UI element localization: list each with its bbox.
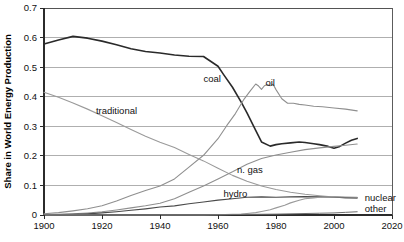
y-axis-tick-labels: 00.10.20.30.40.50.60.7 xyxy=(24,2,37,220)
y-tick-label-0: 0 xyxy=(32,209,37,220)
x-tick-label-3: 1960 xyxy=(207,220,228,231)
y-tick-label-4: 0.4 xyxy=(24,91,37,102)
y-axis-title-text: Share in World Energy Production xyxy=(2,34,13,189)
series-line-coal xyxy=(44,36,357,148)
series-inline-labels: coaloiltraditionaln. gashydronuclearothe… xyxy=(96,73,396,215)
y-tick-label-6: 0.6 xyxy=(24,32,37,43)
x-tick-label-4: 1980 xyxy=(265,220,286,231)
x-tick-label-1: 1920 xyxy=(91,220,112,231)
series-label-coal: coal xyxy=(203,73,220,84)
energy-share-chart: 1900192019401960198020002020 00.10.20.30… xyxy=(0,0,404,242)
series-paths xyxy=(44,36,357,215)
y-tick-label-7: 0.7 xyxy=(24,2,37,13)
chart-svg: 1900192019401960198020002020 00.10.20.30… xyxy=(0,0,404,242)
series-line-ngas xyxy=(44,144,357,215)
series-label-ngas: n. gas xyxy=(237,164,263,175)
series-label-traditional: traditional xyxy=(96,105,137,116)
series-label-nuclear: nuclear xyxy=(365,192,396,203)
series-label-oil: oil xyxy=(265,77,275,88)
x-tick-label-0: 1900 xyxy=(33,220,54,231)
y-tick-label-2: 0.2 xyxy=(24,150,37,161)
y-axis-title: Share in World Energy Production xyxy=(2,34,13,189)
x-tick-label-6: 2020 xyxy=(381,220,402,231)
y-tick-label-3: 0.3 xyxy=(24,121,37,132)
y-tick-label-1: 0.1 xyxy=(24,180,37,191)
series-label-hydro: hydro xyxy=(224,188,248,199)
y-tick-label-5: 0.5 xyxy=(24,62,37,73)
x-axis-tick-labels: 1900192019401960198020002020 xyxy=(33,220,402,231)
x-tick-label-5: 2000 xyxy=(323,220,344,231)
series-label-other: other xyxy=(365,203,387,214)
series-line-traditional xyxy=(44,92,357,198)
x-tick-label-2: 1940 xyxy=(149,220,170,231)
